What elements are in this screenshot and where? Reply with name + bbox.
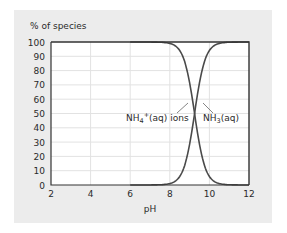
y-tick-label: 80 <box>34 66 46 76</box>
x-axis-title: pH <box>144 204 156 214</box>
x-tick-label: 8 <box>167 189 173 199</box>
x-tick-label: 12 <box>243 189 254 199</box>
y-tick-label: 90 <box>34 52 46 62</box>
y-axis-title: % of species <box>30 21 87 31</box>
y-tick-label: 60 <box>34 95 46 105</box>
y-tick-label: 0 <box>39 181 45 191</box>
x-tick-label: 2 <box>48 189 54 199</box>
nh4-label: NH4+(aq) ions <box>126 111 189 125</box>
y-tick-label: 30 <box>34 138 46 148</box>
x-tick-label: 6 <box>127 189 133 199</box>
y-tick-label: 50 <box>34 109 46 119</box>
x-tick-label: 10 <box>204 189 216 199</box>
y-tick-label: 10 <box>34 166 46 176</box>
y-tick-label: 70 <box>34 80 46 90</box>
y-tick-label: 100 <box>28 38 45 48</box>
y-axis-ticks: 0102030405060708090100 <box>28 38 45 191</box>
x-tick-label: 4 <box>88 189 94 199</box>
x-axis-ticks: 24681012 <box>48 189 255 199</box>
species-distribution-chart: % of species 0102030405060708090100 2468… <box>0 0 287 233</box>
y-tick-label: 40 <box>34 123 46 133</box>
y-tick-label: 20 <box>34 152 46 162</box>
